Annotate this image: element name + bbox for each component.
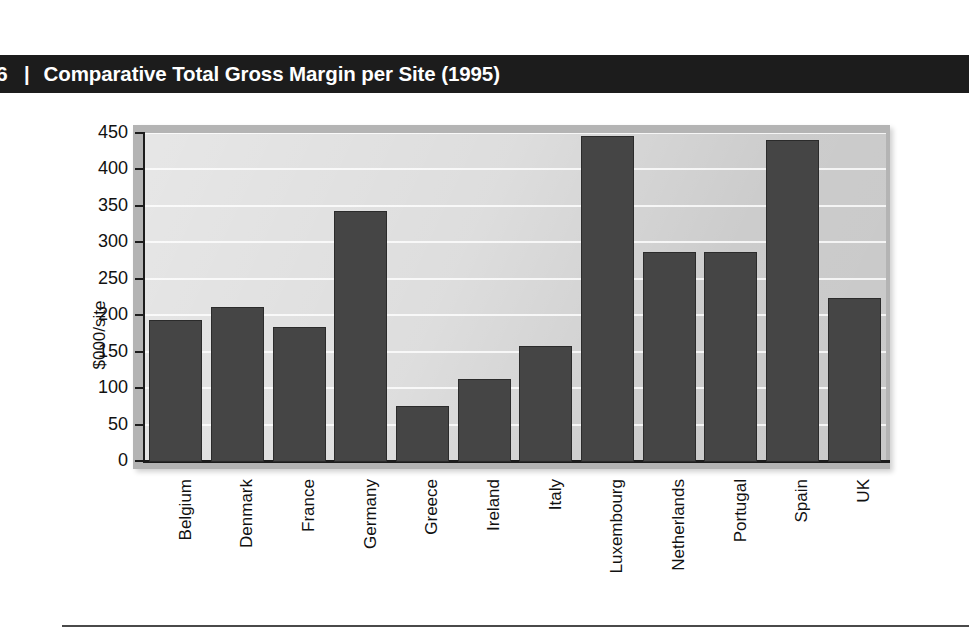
- y-tick-mark: [135, 132, 144, 134]
- bar-slot: [762, 125, 824, 462]
- title-banner: 6 | Comparative Total Gross Margin per S…: [0, 55, 969, 93]
- page-number: 6: [0, 62, 8, 86]
- x-label-slot: Belgium: [145, 475, 207, 595]
- x-label-slot: Spain: [762, 475, 824, 595]
- footer-rule: [62, 625, 969, 627]
- y-tick-label: 300: [98, 231, 128, 252]
- bar-slot: [330, 125, 392, 462]
- y-tick-label: 50: [108, 413, 128, 434]
- x-tick-label: France: [299, 479, 319, 532]
- x-tick-label: Italy: [546, 479, 566, 510]
- bar[interactable]: [458, 379, 511, 462]
- y-tick-label: 200: [98, 304, 128, 325]
- x-tick-label: Netherlands: [669, 479, 689, 571]
- y-tick-label: 350: [98, 194, 128, 215]
- x-label-slot: Portugal: [700, 475, 762, 595]
- bar[interactable]: [396, 406, 449, 462]
- bar-slot: [207, 125, 269, 462]
- y-tick-mark: [135, 314, 144, 316]
- x-label-slot: Ireland: [453, 475, 515, 595]
- x-tick-label: Greece: [422, 479, 442, 535]
- bar[interactable]: [581, 136, 634, 462]
- x-label-slot: Netherlands: [638, 475, 700, 595]
- bar[interactable]: [273, 327, 326, 462]
- y-tick-label: 150: [98, 340, 128, 361]
- title-separator-icon: |: [24, 63, 30, 86]
- bar[interactable]: [828, 298, 881, 462]
- bar[interactable]: [704, 252, 757, 462]
- x-tick-label: UK: [854, 479, 874, 503]
- x-tick-label: Luxembourg: [607, 479, 627, 574]
- y-tick-mark: [135, 424, 144, 426]
- y-tick-mark: [135, 278, 144, 280]
- x-label-slot: France: [268, 475, 330, 595]
- bar-slot: [453, 125, 515, 462]
- bar-slot: [823, 125, 885, 462]
- x-tick-label: Spain: [792, 479, 812, 522]
- x-tick-label: Germany: [361, 479, 381, 549]
- y-tick-label: 400: [98, 158, 128, 179]
- bar-slot: [268, 125, 330, 462]
- x-label-slot: Italy: [515, 475, 577, 595]
- x-label-slot: Denmark: [207, 475, 269, 595]
- x-label-slot: Greece: [392, 475, 454, 595]
- y-tick-label: 450: [98, 122, 128, 143]
- bar-slot: [638, 125, 700, 462]
- bar[interactable]: [519, 346, 572, 462]
- y-tick-label: 0: [118, 450, 128, 471]
- bars-layer: [145, 125, 885, 462]
- y-tick-label: 250: [98, 267, 128, 288]
- bar[interactable]: [643, 252, 696, 462]
- bar[interactable]: [149, 320, 202, 462]
- y-tick-label: 100: [98, 377, 128, 398]
- bar-slot: [577, 125, 639, 462]
- bar[interactable]: [211, 307, 264, 462]
- x-tick-label: Ireland: [484, 479, 504, 531]
- bar[interactable]: [334, 211, 387, 462]
- bar-chart: $000/site 050100150200250300350400450 Be…: [0, 100, 969, 600]
- x-label-slot: UK: [823, 475, 885, 595]
- bar-slot: [515, 125, 577, 462]
- bar[interactable]: [766, 140, 819, 462]
- y-tick-mark: [135, 387, 144, 389]
- x-label-slot: Luxembourg: [577, 475, 639, 595]
- bar-slot: [392, 125, 454, 462]
- x-label-slot: Germany: [330, 475, 392, 595]
- y-tick-mark: [135, 460, 144, 462]
- x-tick-label: Belgium: [176, 479, 196, 540]
- x-tick-label: Denmark: [237, 479, 257, 548]
- x-axis-category-labels: BelgiumDenmarkFranceGermanyGreeceIreland…: [145, 475, 885, 595]
- y-tick-mark: [135, 241, 144, 243]
- x-tick-label: Portugal: [731, 479, 751, 542]
- y-tick-mark: [135, 205, 144, 207]
- y-axis-tick-labels: 050100150200250300350400450: [60, 125, 128, 455]
- y-tick-mark: [135, 351, 144, 353]
- page-title: Comparative Total Gross Margin per Site …: [44, 62, 500, 86]
- bar-slot: [145, 125, 207, 462]
- bar-slot: [700, 125, 762, 462]
- y-tick-mark: [135, 168, 144, 170]
